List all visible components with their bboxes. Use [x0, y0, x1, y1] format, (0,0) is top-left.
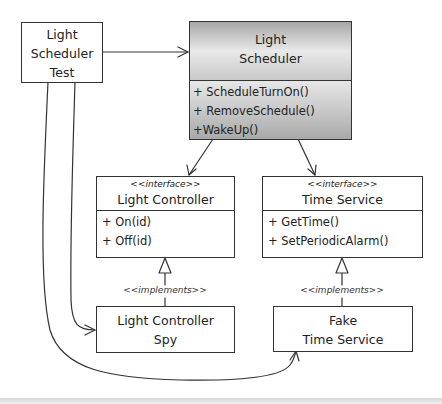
- operation-off: + Off(id): [102, 232, 234, 251]
- class-light-scheduler: Light Scheduler + ScheduleTurnOn() + Rem…: [189, 21, 352, 140]
- realization-triangle-icon: [336, 258, 348, 273]
- operation-schedule-turn-on: + ScheduleTurnOn(): [193, 83, 351, 102]
- operation-get-time: + GetTime(): [268, 213, 422, 232]
- operation-set-periodic-alarm: + SetPeriodicAlarm(): [268, 232, 422, 251]
- uml-diagram: Light Scheduler Test Light Scheduler + S…: [0, 0, 442, 404]
- interface-light-controller: <<interface>> Light Controller + On(id) …: [96, 176, 235, 258]
- operations-list: + ScheduleTurnOn() + RemoveSchedule() +W…: [190, 81, 351, 140]
- class-title: Time Service: [263, 190, 422, 209]
- operation-wake-up: +WakeUp(): [193, 121, 351, 140]
- implements-label-right: <<implements>>: [292, 285, 392, 295]
- class-header: Light Scheduler: [190, 22, 351, 81]
- class-light-controller-spy: Light Controller Spy: [96, 306, 235, 353]
- edge-scheduler-to-light-controller: [189, 139, 213, 175]
- class-title-line: Light: [22, 25, 102, 44]
- class-header: <<interface>> Time Service: [263, 177, 422, 211]
- operations-list: + GetTime() + SetPeriodicAlarm(): [263, 211, 422, 251]
- edge-test-to-spy: [71, 82, 95, 330]
- class-fake-time-service: Fake Time Service: [273, 306, 413, 352]
- class-title: Light Controller: [97, 190, 234, 209]
- class-title-line: Scheduler: [22, 44, 102, 63]
- edge-scheduler-to-time-service: [298, 139, 315, 175]
- interface-time-service: <<interface>> Time Service + GetTime() +…: [262, 176, 423, 258]
- class-title-line: Time Service: [274, 330, 412, 349]
- stereotype-label: <<interface>>: [97, 177, 234, 190]
- class-title-line: Light: [190, 30, 351, 49]
- implements-label-left: <<implements>>: [115, 285, 215, 295]
- class-title-line: Scheduler: [190, 49, 351, 68]
- class-title-line: Test: [22, 63, 102, 82]
- stereotype-label: <<interface>>: [263, 177, 422, 190]
- class-title-line: Light Controller: [97, 311, 234, 330]
- class-header: <<interface>> Light Controller: [97, 177, 234, 211]
- page-bottom-divider: [0, 398, 442, 404]
- operation-remove-schedule: + RemoveSchedule(): [193, 102, 351, 121]
- operation-on: + On(id): [102, 213, 234, 232]
- operations-list: + On(id) + Off(id): [97, 211, 234, 251]
- class-light-scheduler-test: Light Scheduler Test: [21, 22, 103, 83]
- class-title-line: Fake: [274, 311, 412, 330]
- realization-triangle-icon: [159, 258, 171, 273]
- class-title-line: Spy: [97, 330, 234, 349]
